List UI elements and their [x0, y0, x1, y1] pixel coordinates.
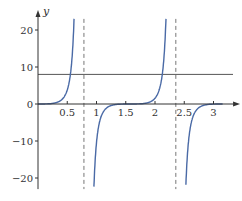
y-tick-label: 20 — [20, 25, 33, 36]
x-tick-label: 0.5 — [59, 107, 75, 118]
x-tick-label: 3 — [210, 107, 216, 118]
y-axis-label: y — [42, 5, 50, 18]
y-tick-label: −10 — [12, 136, 33, 147]
x-tick-label: 2.5 — [176, 107, 192, 118]
x-tick-label: 1.5 — [118, 107, 134, 118]
chart: 0.511.522.53−20−1001020 t y — [0, 0, 242, 201]
x-axis-arrow-icon — [233, 102, 240, 107]
x-tick-label: 1 — [93, 107, 99, 118]
y-axis-arrow-icon — [36, 10, 41, 17]
y-tick-label: 0 — [27, 99, 33, 110]
axes: 0.511.522.53−20−1001020 — [12, 10, 240, 189]
y-tick-label: 10 — [20, 62, 33, 73]
curve-series — [38, 19, 223, 187]
x-tick-label: 2 — [152, 107, 158, 118]
y-tick-label: −20 — [12, 173, 33, 184]
